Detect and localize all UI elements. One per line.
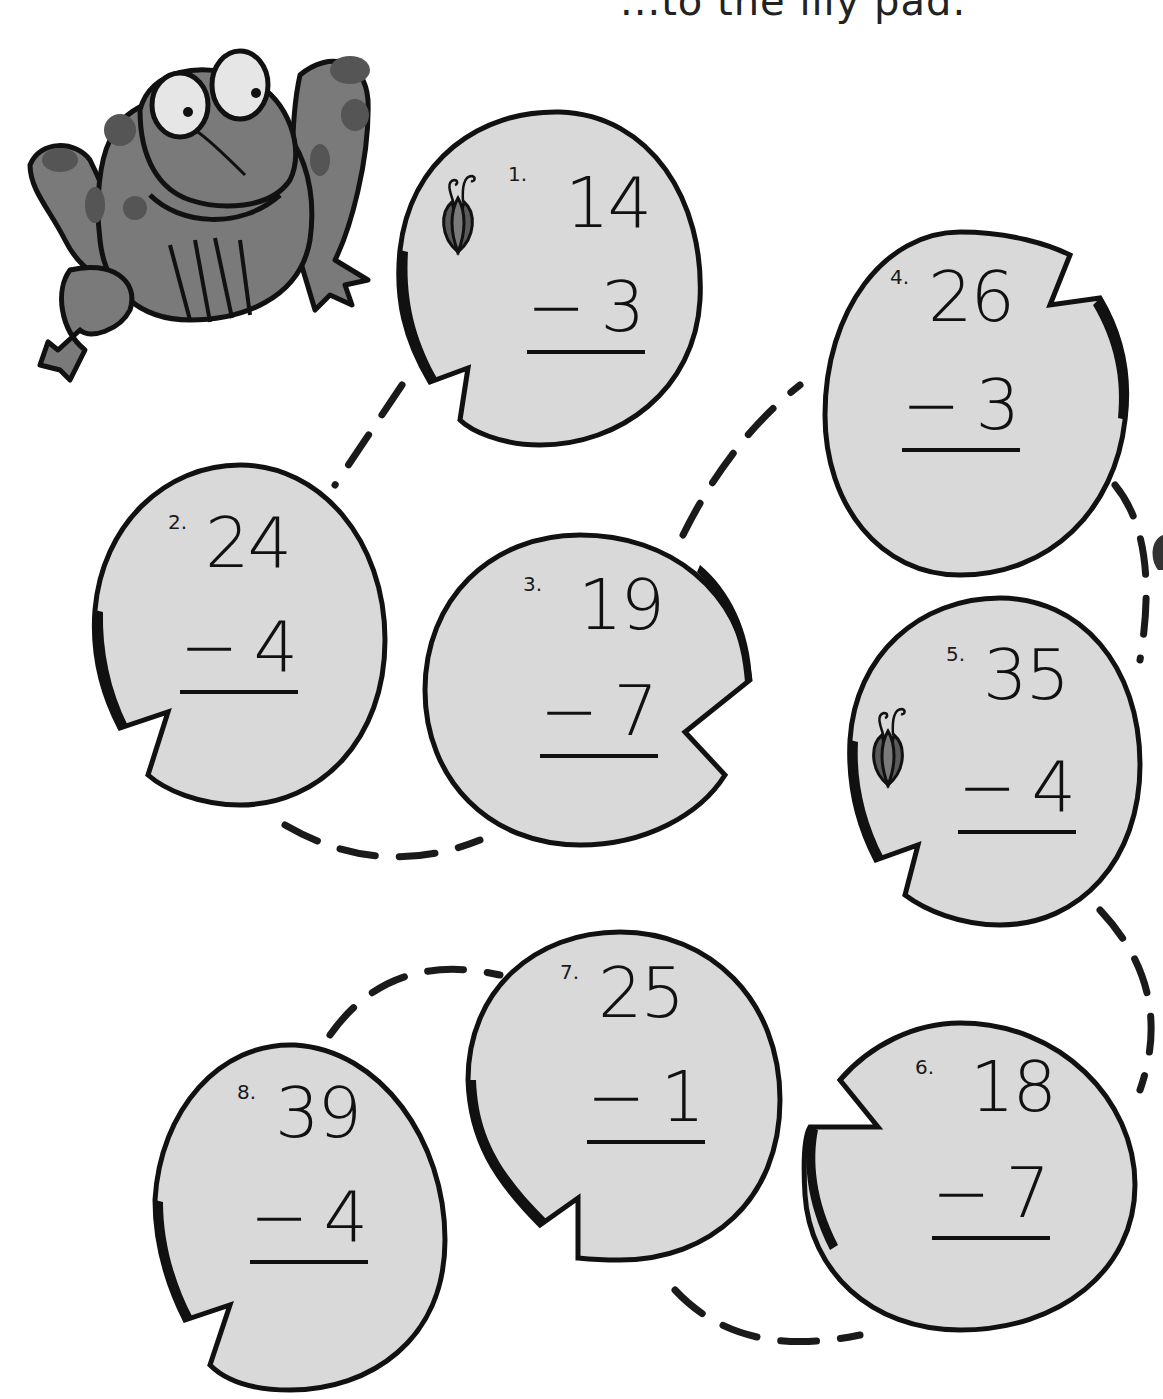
minuend: 26	[928, 262, 1013, 332]
minuend: 35	[983, 640, 1068, 710]
minuend: 25	[598, 958, 683, 1028]
subtrahend-row: − 3	[527, 272, 645, 354]
subtrahend: 3	[600, 272, 645, 342]
minus-sign: −	[540, 676, 599, 746]
minus-sign: −	[527, 272, 586, 342]
minuend: 14	[565, 168, 650, 238]
subtrahend: 4	[253, 612, 298, 682]
subtrahend-row: − 4	[250, 1182, 368, 1264]
minus-sign: −	[180, 612, 239, 682]
partial-lily-pad	[1153, 535, 1163, 570]
minuend: 24	[205, 508, 290, 578]
minus-sign: −	[932, 1158, 991, 1228]
minuend: 18	[970, 1052, 1055, 1122]
problem-number: 7.	[560, 960, 579, 984]
minus-sign: −	[587, 1062, 646, 1132]
minus-sign: −	[958, 752, 1017, 822]
subtrahend-row: − 7	[540, 676, 658, 758]
problem-number: 8.	[237, 1080, 256, 1104]
subtrahend-row: − 4	[958, 752, 1076, 834]
subtrahend: 4	[1031, 752, 1076, 822]
minuend: 39	[275, 1078, 360, 1148]
problem-number: 1.	[508, 162, 527, 186]
subtrahend: 3	[975, 370, 1020, 440]
problem-number: 5.	[946, 642, 965, 666]
subtrahend-row: − 1	[587, 1062, 705, 1144]
problem-number: 3.	[523, 572, 542, 596]
subtrahend-row: − 7	[932, 1158, 1050, 1240]
problem-number: 2.	[168, 510, 187, 534]
subtrahend: 1	[660, 1062, 705, 1132]
problem-number: 4.	[890, 265, 909, 289]
subtrahend: 7	[1005, 1158, 1050, 1228]
subtrahend-row: − 3	[902, 370, 1020, 452]
minuend: 19	[578, 570, 663, 640]
minus-sign: −	[902, 370, 961, 440]
subtrahend-row: − 4	[180, 612, 298, 694]
minus-sign: −	[250, 1182, 309, 1252]
subtrahend: 4	[323, 1182, 368, 1252]
problem-number: 6.	[915, 1055, 934, 1079]
subtrahend: 7	[613, 676, 658, 746]
frog-icon	[30, 51, 370, 380]
